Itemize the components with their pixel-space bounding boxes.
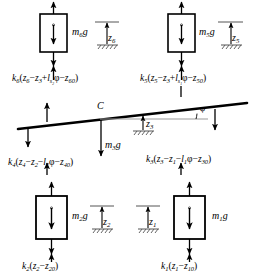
label-mass-m5: m5g <box>199 27 215 39</box>
diagram-canvas <box>0 0 264 278</box>
block-m2 <box>36 182 67 254</box>
free-body-diagram: m6g z6 m5g z5 k6(z6−z3+ls2φ−z60) k5(z5−z… <box>0 0 264 278</box>
block-m1 <box>174 182 205 254</box>
label-angle-phi: φ <box>200 104 205 113</box>
label-mass-m6: m6g <box>72 27 88 39</box>
label-mass-m1: m1g <box>212 211 228 223</box>
label-mass-m2: m2g <box>72 211 88 223</box>
label-coordinate-z1: z1 <box>149 217 156 229</box>
label-equation-k6: k6(z6−z3+ls2φ−z60) <box>12 74 78 87</box>
label-point-c: C <box>97 101 104 111</box>
label-equation-k1: k1(z1−z10) <box>161 262 197 272</box>
label-equation-k4: k4(z4−z2−l2φ−z40) <box>8 158 73 168</box>
label-mass-m3: m3g <box>105 140 121 152</box>
angle-arc-phi <box>196 114 197 119</box>
label-equation-k2: k2(z2−z20) <box>22 262 58 272</box>
coordinate-marker-z1 <box>136 206 160 233</box>
label-coordinate-z2: z2 <box>103 217 110 229</box>
block-m6 <box>40 2 67 66</box>
coordinate-marker-z2 <box>90 206 114 233</box>
label-coordinate-z5: z5 <box>232 33 239 45</box>
tilted-beam <box>18 103 247 129</box>
block-m5 <box>168 2 195 66</box>
coordinate-marker-z6 <box>95 22 119 49</box>
label-coordinate-z3: z3 <box>146 119 153 131</box>
label-equation-k5: k5(z5−z3+ls1φ−z50) <box>140 74 206 87</box>
beam-force-arrows <box>28 86 215 156</box>
label-equation-k3: k3(z3−z1−l1φ−z30) <box>146 155 211 165</box>
label-coordinate-z6: z6 <box>108 33 115 45</box>
